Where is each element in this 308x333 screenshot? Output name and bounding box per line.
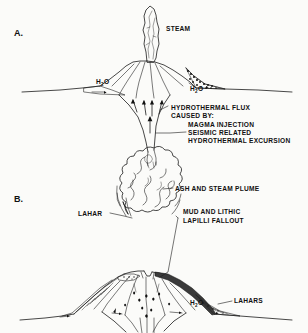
ash-steam-plume-b [117,146,183,216]
leaders-b [110,188,232,304]
figure-canvas: A. STEAM H 2 O H 2 O HYDROTHERMAL FLUX C… [0,0,308,333]
label-ash-steam-plume: ASH AND STEAM PLUME [175,185,260,192]
h2o-left-o: O [104,78,109,85]
volcanic-hazard-figure: A. STEAM H 2 O H 2 O HYDROTHERMAL FLUX C… [0,0,308,333]
flux-line-2: CAUSED BY: [171,112,214,119]
fallout-line-2: LAPILLI FALLOUT [183,217,244,224]
label-h2o-left-a: H 2 O [96,78,109,87]
cause-seismic-related: SEISMIC RELATED [188,129,251,136]
panel-b-letter: B. [14,194,23,204]
lahar-deposit-left-b [62,274,140,316]
h2o-b-o: O [198,299,203,306]
upward-flow-arrows-a [131,99,164,133]
panel-a-letter: A. [14,28,23,38]
steam-plume-a [143,6,159,62]
left-flank-water-wedge-a [84,86,125,95]
label-steam: STEAM [166,25,191,32]
flux-line-1: HYDROTHERMAL FLUX [171,104,251,111]
ground-line-a [22,86,292,92]
panel-b-group: B. ASH AND STEAM PLUME LAHAR MUD AND LIT… [14,146,292,333]
cause-magma-injection: MAGMA INJECTION [188,121,254,128]
label-h2o-right-a: H 2 O [190,85,203,94]
fallout-line-1: MUD AND LITHIC [183,208,240,215]
h2o-right-o: O [198,85,203,92]
label-mud-lapilli-fallout: MUD AND LITHIC LAPILLI FALLOUT [183,208,244,224]
panel-a-group: A. STEAM H 2 O H 2 O HYDROTHERMAL FLUX C… [14,6,292,168]
crater-vent-b [141,271,154,279]
flank-flow-lines-a [112,62,183,98]
label-lahars-right: LAHARS [234,297,263,304]
hydrothermal-flux-annotation: HYDROTHERMAL FLUX CAUSED BY: MAGMA INJEC… [171,104,290,144]
conduit-funnel-b [102,312,186,333]
magma-blob-a [145,155,154,168]
cause-hydrothermal-excursion: HYDROTHERMAL EXCURSION [188,137,290,144]
fallout-band-b [155,272,216,315]
label-lahar-left: LAHAR [78,210,102,217]
